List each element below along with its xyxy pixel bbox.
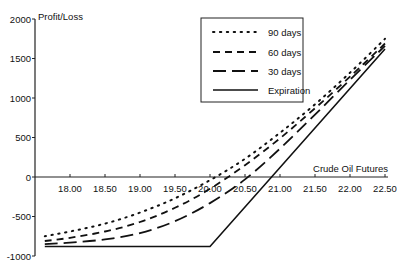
legend-label: 60 days: [268, 47, 302, 58]
legend-label: 30 days: [268, 66, 302, 77]
y-tick-label: 500: [15, 132, 31, 143]
chart-canvas: 2000150010005000-500-100018.0018.5019.00…: [0, 0, 413, 272]
x-tick-label: 21.50: [303, 183, 327, 194]
payoff-chart: 2000150010005000-500-100018.0018.5019.00…: [0, 0, 413, 272]
x-tick-label: 18.00: [58, 183, 82, 194]
y-tick-label: 1000: [10, 93, 31, 104]
y-axis-label: Profit/Loss: [38, 11, 83, 22]
x-tick-label: 18.50: [93, 183, 117, 194]
x-tick-label: 20.50: [233, 183, 257, 194]
x-tick-label: 22.50: [373, 183, 397, 194]
legend: 90 days60 days30 daysExpiration: [201, 18, 310, 102]
y-tick-label: -500: [12, 211, 31, 222]
legend-label: Expiration: [268, 85, 310, 96]
x-tick-label: 21.00: [268, 183, 292, 194]
legend-label: 90 days: [268, 27, 302, 38]
x-tick-label: 19.50: [163, 183, 187, 194]
x-axis-label: Crude Oil Futures: [313, 163, 388, 174]
x-tick-label: 19.00: [128, 183, 152, 194]
y-tick-label: 1500: [10, 53, 31, 64]
x-tick-label: 22.00: [338, 183, 362, 194]
y-tick-label: -1000: [7, 251, 31, 262]
y-tick-label: 0: [26, 172, 31, 183]
y-tick-label: 2000: [10, 14, 31, 25]
